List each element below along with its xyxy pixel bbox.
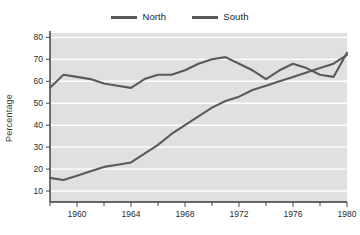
svg-text:40: 40 bbox=[34, 120, 44, 130]
svg-text:1976: 1976 bbox=[284, 209, 303, 219]
svg-text:1968: 1968 bbox=[176, 209, 195, 219]
svg-text:60: 60 bbox=[34, 76, 44, 86]
y-axis-ticks: 1020304050607080 bbox=[34, 32, 50, 196]
svg-text:10: 10 bbox=[34, 186, 44, 196]
svg-text:70: 70 bbox=[34, 54, 44, 64]
svg-text:50: 50 bbox=[34, 98, 44, 108]
line-chart: North South Percentage 1020304050607080 … bbox=[0, 0, 360, 235]
x-axis-ticks: 196019641968197219761980 bbox=[50, 202, 357, 219]
svg-text:80: 80 bbox=[34, 32, 44, 42]
svg-text:1972: 1972 bbox=[230, 209, 249, 219]
svg-text:1980: 1980 bbox=[338, 209, 357, 219]
plot-area: 1020304050607080 19601964196819721976198… bbox=[0, 0, 360, 235]
svg-text:30: 30 bbox=[34, 142, 44, 152]
svg-text:1960: 1960 bbox=[68, 209, 87, 219]
svg-text:20: 20 bbox=[34, 164, 44, 174]
svg-text:1964: 1964 bbox=[122, 209, 141, 219]
